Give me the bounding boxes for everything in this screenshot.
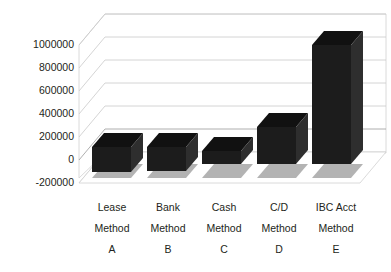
y-tick-label: 600000 [39, 84, 74, 96]
y-tick-label: 200000 [39, 130, 74, 142]
bar-ibc-acct-method-e[interactable] [312, 31, 363, 164]
chart-container: 1000000 800000 600000 400000 200000 0 -2… [0, 0, 391, 272]
x-tick-label-line: Lease [98, 201, 127, 213]
bar-bank-method-b[interactable] [147, 133, 198, 171]
x-tick-label-line: C/D [270, 201, 289, 213]
y-tick-label: 400000 [39, 107, 74, 119]
x-tick-label-line: D [275, 243, 283, 255]
x-tick-label-line: Method [150, 222, 185, 234]
bar-lease-method-a[interactable] [92, 133, 143, 172]
x-tick-label-line: Cash [212, 201, 237, 213]
x-tick-label-line: E [332, 243, 339, 255]
bar-chart-3d: 1000000 800000 600000 400000 200000 0 -2… [0, 0, 391, 272]
y-tick-label: 800000 [39, 61, 74, 73]
x-tick-label-line: Method [318, 222, 353, 234]
x-tick-label-line: B [164, 243, 171, 255]
y-tick-label: 0 [68, 153, 74, 165]
y-tick-label: 1000000 [33, 38, 74, 50]
x-tick-label-line: IBC Acct [316, 201, 356, 213]
x-tick-label-line: Bank [156, 201, 181, 213]
x-tick-label-line: Method [94, 222, 129, 234]
x-tick-label-line: C [220, 243, 228, 255]
bar-cd-method-d[interactable] [257, 113, 308, 164]
y-tick-label: -200000 [35, 176, 74, 188]
x-tick-label-line: A [108, 243, 115, 255]
x-tick-label-line: Method [261, 222, 296, 234]
x-tick-label-line: Method [206, 222, 241, 234]
